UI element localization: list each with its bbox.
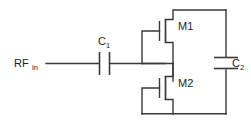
m2-drain-wire (166, 64, 174, 77)
c1-subscript-label: 1 (106, 41, 110, 50)
c2-subscript-label: 2 (240, 63, 244, 72)
m1-label: M1 (178, 20, 193, 32)
circuit-diagram: M1 M2 (0, 0, 251, 124)
c1-base-label: C (98, 35, 106, 47)
label-c2: C 2 (232, 57, 244, 72)
transistor-m1: M1 (142, 10, 226, 64)
c2-base-label: C (232, 57, 240, 69)
rf-in-base-label: RF (14, 57, 29, 69)
m2-label: M2 (178, 77, 193, 89)
m1-source-wire (166, 43, 174, 64)
transistor-m2: M2 (142, 64, 193, 115)
m1-drain-wire (166, 10, 227, 20)
label-c1: C 1 (98, 35, 110, 50)
m1-gate-wire (142, 31, 160, 64)
schematic-canvas: M1 M2 (0, 0, 251, 124)
label-rf-in: RF in (14, 57, 38, 72)
m2-source-wire (166, 100, 174, 115)
rf-in-subscript-label: in (32, 63, 38, 72)
capacitor-c1 (100, 52, 110, 75)
m2-gate-wire (142, 88, 160, 114)
